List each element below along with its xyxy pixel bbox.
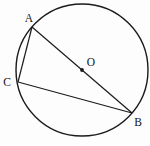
- circle-diagram-svg: AOCB: [0, 0, 150, 146]
- chords-group: [18, 27, 132, 113]
- point-label-A: A: [25, 12, 34, 24]
- center-dot: [80, 68, 84, 72]
- point-label-C: C: [3, 76, 11, 88]
- point-label-O: O: [87, 56, 95, 68]
- point-label-B: B: [134, 116, 142, 128]
- chord-AC: [18, 27, 32, 82]
- geometry-figure: AOCB: [0, 0, 150, 146]
- chord-CB: [18, 82, 132, 113]
